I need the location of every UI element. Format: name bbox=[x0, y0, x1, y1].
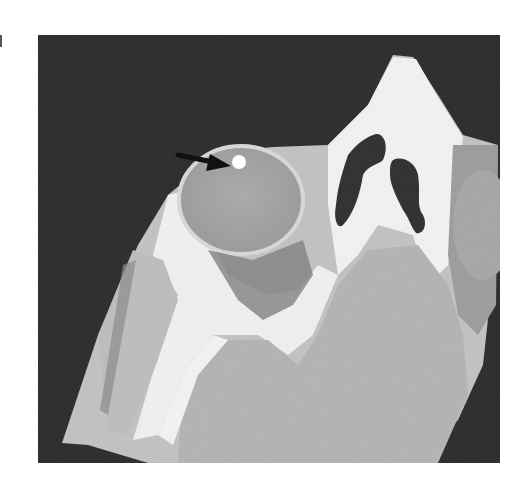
foreign-body bbox=[232, 155, 246, 169]
ct-scan-image bbox=[38, 35, 500, 463]
page-edge-mark bbox=[0, 35, 2, 47]
ct-scan-svg bbox=[38, 35, 500, 463]
scan-noise bbox=[38, 35, 500, 463]
